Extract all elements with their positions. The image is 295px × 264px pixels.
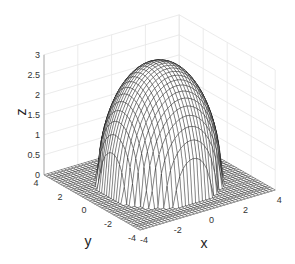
z-tick-label: 0.5 bbox=[27, 150, 40, 160]
x-tick-label: 2 bbox=[243, 205, 248, 215]
y-tick-label: 2 bbox=[57, 192, 62, 202]
surface-plot: 00.511.522.53-4-2024-4-2024zyx bbox=[0, 0, 295, 264]
x-tick-label: -4 bbox=[140, 235, 148, 245]
x-tick-label: 4 bbox=[277, 195, 282, 205]
y-tick-label: 4 bbox=[33, 178, 38, 188]
x-axis-label: x bbox=[201, 235, 208, 251]
z-tick-label: 3 bbox=[35, 50, 40, 60]
y-tick-label: -4 bbox=[128, 233, 136, 243]
x-tick-label: 0 bbox=[209, 215, 214, 225]
z-axis-label: z bbox=[13, 109, 29, 116]
x-tick-label: -2 bbox=[174, 225, 182, 235]
y-tick-label: -2 bbox=[104, 219, 112, 229]
z-tick-label: 1.5 bbox=[27, 110, 40, 120]
y-axis-label: y bbox=[85, 233, 92, 249]
y-tick-label: 0 bbox=[81, 205, 86, 215]
z-tick-label: 2 bbox=[35, 90, 40, 100]
plot-canvas: 00.511.522.53-4-2024-4-2024zyx bbox=[0, 0, 295, 264]
z-tick-label: 1 bbox=[35, 130, 40, 140]
z-tick-label: 2.5 bbox=[27, 70, 40, 80]
